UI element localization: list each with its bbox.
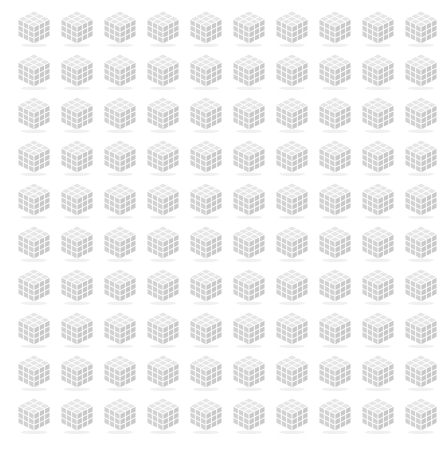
cube-icon bbox=[186, 136, 226, 176]
cube-icon bbox=[315, 351, 355, 391]
cube-icon bbox=[143, 7, 183, 47]
cube-icon bbox=[272, 351, 312, 391]
cube-icon bbox=[315, 50, 355, 90]
cube-icon bbox=[401, 7, 441, 47]
cube-icon bbox=[14, 394, 54, 434]
cube-icon bbox=[401, 394, 441, 434]
cube-icon bbox=[401, 50, 441, 90]
cube-icon bbox=[14, 222, 54, 262]
cube-icon bbox=[401, 136, 441, 176]
cube-icon bbox=[100, 136, 140, 176]
cube-icon bbox=[100, 50, 140, 90]
cube-icon bbox=[57, 222, 97, 262]
cube-icon bbox=[358, 351, 398, 391]
cube-icon bbox=[229, 394, 269, 434]
cube-icon bbox=[143, 93, 183, 133]
cube-icon bbox=[186, 50, 226, 90]
cube-icon bbox=[14, 93, 54, 133]
cube-icon bbox=[57, 179, 97, 219]
cube-icon bbox=[100, 93, 140, 133]
cube-icon bbox=[315, 7, 355, 47]
cube-icon bbox=[272, 93, 312, 133]
cube-icon bbox=[272, 179, 312, 219]
cube-icon bbox=[186, 351, 226, 391]
cube-icon bbox=[315, 136, 355, 176]
cube-icon bbox=[14, 351, 54, 391]
cube-icon bbox=[143, 136, 183, 176]
cube-icon bbox=[315, 265, 355, 305]
cube-icon bbox=[186, 7, 226, 47]
cube-icon bbox=[229, 222, 269, 262]
cube-icon bbox=[401, 351, 441, 391]
cube-icon bbox=[358, 394, 398, 434]
cube-icon bbox=[186, 179, 226, 219]
cube-icon bbox=[401, 93, 441, 133]
cube-icon bbox=[100, 7, 140, 47]
cube-icon bbox=[272, 308, 312, 348]
cube-icon bbox=[100, 222, 140, 262]
cube-icon bbox=[315, 222, 355, 262]
cube-icon bbox=[401, 265, 441, 305]
cube-pattern-canvas bbox=[0, 0, 445, 451]
cube-icon bbox=[272, 394, 312, 434]
cube-icon bbox=[401, 308, 441, 348]
cube-icon bbox=[57, 136, 97, 176]
cube-icon bbox=[14, 265, 54, 305]
cube-icon bbox=[186, 308, 226, 348]
cube-grid bbox=[0, 0, 445, 451]
cube-icon bbox=[143, 50, 183, 90]
cube-icon bbox=[14, 50, 54, 90]
cube-icon bbox=[229, 136, 269, 176]
cube-icon bbox=[358, 7, 398, 47]
cube-icon bbox=[272, 222, 312, 262]
cube-icon bbox=[358, 179, 398, 219]
cube-icon bbox=[229, 93, 269, 133]
cube-icon bbox=[14, 7, 54, 47]
cube-icon bbox=[100, 394, 140, 434]
cube-icon bbox=[57, 265, 97, 305]
cube-icon bbox=[143, 179, 183, 219]
cube-icon bbox=[315, 308, 355, 348]
cube-icon bbox=[401, 179, 441, 219]
cube-icon bbox=[143, 308, 183, 348]
cube-icon bbox=[57, 394, 97, 434]
cube-icon bbox=[229, 7, 269, 47]
cube-icon bbox=[14, 136, 54, 176]
cube-icon bbox=[272, 7, 312, 47]
cube-icon bbox=[229, 308, 269, 348]
cube-icon bbox=[358, 308, 398, 348]
cube-icon bbox=[57, 7, 97, 47]
cube-icon bbox=[401, 222, 441, 262]
cube-icon bbox=[100, 179, 140, 219]
cube-icon bbox=[186, 93, 226, 133]
cube-icon bbox=[100, 265, 140, 305]
cube-icon bbox=[143, 222, 183, 262]
cube-icon bbox=[272, 50, 312, 90]
cube-icon bbox=[100, 308, 140, 348]
cube-icon bbox=[100, 351, 140, 391]
cube-icon bbox=[315, 179, 355, 219]
cube-icon bbox=[186, 222, 226, 262]
cube-icon bbox=[57, 50, 97, 90]
cube-icon bbox=[358, 50, 398, 90]
cube-icon bbox=[186, 394, 226, 434]
cube-icon bbox=[229, 265, 269, 305]
cube-icon bbox=[229, 50, 269, 90]
cube-icon bbox=[229, 179, 269, 219]
cube-icon bbox=[143, 265, 183, 305]
cube-icon bbox=[272, 136, 312, 176]
cube-icon bbox=[358, 93, 398, 133]
cube-icon bbox=[229, 351, 269, 391]
cube-icon bbox=[143, 351, 183, 391]
cube-icon bbox=[315, 394, 355, 434]
cube-icon bbox=[272, 265, 312, 305]
cube-icon bbox=[186, 265, 226, 305]
cube-icon bbox=[143, 394, 183, 434]
cube-icon bbox=[14, 308, 54, 348]
cube-icon bbox=[358, 265, 398, 305]
cube-icon bbox=[57, 93, 97, 133]
cube-icon bbox=[358, 136, 398, 176]
cube-icon bbox=[358, 222, 398, 262]
cube-icon bbox=[57, 308, 97, 348]
cube-icon bbox=[57, 351, 97, 391]
